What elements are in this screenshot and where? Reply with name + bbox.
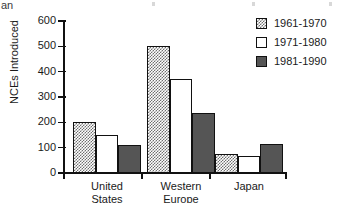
legend-label: 1981-1990: [274, 56, 327, 67]
bar: [118, 145, 141, 173]
x-axis-tick: [285, 172, 287, 179]
bar: [147, 46, 170, 173]
x-axis-category-label: Japan: [204, 180, 294, 193]
bar: [238, 156, 261, 173]
y-axis-tick-label: 300: [4, 91, 56, 102]
x-axis-tick: [63, 172, 65, 179]
y-axis-tick-labels: 0100200300400500600: [0, 0, 56, 203]
legend-swatch: [256, 18, 267, 29]
y-axis-tick-label: 600: [4, 15, 56, 26]
legend-label: 1971-1980: [274, 37, 327, 48]
legend-label: 1961-1970: [274, 18, 327, 29]
plot-area: [63, 21, 285, 173]
x-axis-tick: [209, 172, 211, 179]
bar-chart: NCEs Introduced 0100200300400500600 Unit…: [0, 0, 342, 203]
bar: [192, 113, 215, 173]
legend-item: 1961-1970: [256, 14, 342, 33]
y-axis-tick-label: 100: [4, 142, 56, 153]
legend-swatch: [256, 56, 267, 67]
legend: 1961-19701971-19801981-1990: [256, 14, 342, 71]
legend-swatch: [256, 37, 267, 48]
y-axis-tick-label: 0: [4, 167, 56, 178]
bar: [170, 79, 193, 173]
bar: [215, 154, 238, 173]
y-axis-tick-label: 500: [4, 40, 56, 51]
y-axis-tick-label: 200: [4, 116, 56, 127]
bar: [260, 144, 283, 173]
legend-item: 1981-1990: [256, 52, 342, 71]
y-axis-tick-label: 400: [4, 66, 56, 77]
bar: [73, 122, 96, 173]
legend-item: 1971-1980: [256, 33, 342, 52]
bar: [96, 135, 119, 173]
x-axis-tick: [141, 172, 143, 179]
